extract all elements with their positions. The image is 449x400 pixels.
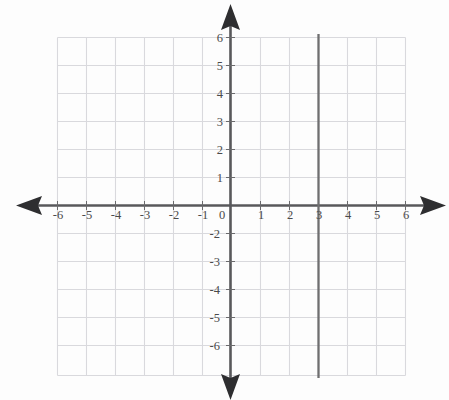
x-tick-label--2: -2 [163,208,185,222]
coordinate-graph: -6 -5 -4 -3 -2 -1 0 1 2 3 4 5 6 6 5 4 3 … [0,0,449,400]
y-tick-label-3: 3 [203,115,223,129]
y-tick-label--4: -4 [200,283,220,297]
y-tick-label--3: -3 [200,255,220,269]
x-tick-label--5: -5 [76,208,98,222]
y-tick-label-6: 6 [203,31,223,45]
y-tick-label--5: -5 [200,311,220,325]
y-tick-label-2: 2 [203,143,223,157]
x-tick-label--6: -6 [47,208,69,222]
x-tick-label-1: 1 [250,208,272,222]
x-tick-label-3: 3 [308,208,330,222]
x-tick-label--3: -3 [134,208,156,222]
x-tick-label-5: 5 [366,208,388,222]
x-tick-label-4: 4 [337,208,359,222]
origin-label: 0 [211,208,233,222]
y-tick-label-1: 1 [203,171,223,185]
x-tick-label-2: 2 [279,208,301,222]
x-tick-label--4: -4 [105,208,127,222]
y-tick-label--6: -6 [200,339,220,353]
y-tick-label-5: 5 [203,59,223,73]
x-tick-label-6: 6 [395,208,417,222]
y-tick-label-4: 4 [203,87,223,101]
y-tick-label--2: -2 [200,227,220,241]
paper-background [0,0,449,400]
graph-svg [0,0,449,400]
